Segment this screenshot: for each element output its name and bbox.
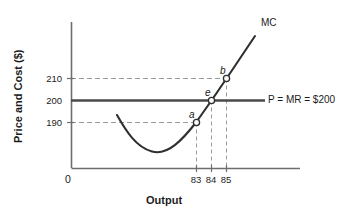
price-mr-label: P = MR = $200: [268, 94, 335, 105]
chart-canvas: [0, 0, 343, 219]
y-tick-label-200: 200: [28, 95, 62, 106]
point-label-b: b: [220, 65, 226, 76]
data-point-b: [223, 75, 229, 81]
x-axis-title: Output: [146, 194, 182, 206]
marginal-cost-curve: [117, 36, 255, 152]
y-tick-label-210: 210: [28, 73, 62, 84]
origin-label: 0: [65, 173, 71, 185]
mc-curve-label: MC: [261, 17, 277, 28]
y-axis-title: Price and Cost ($): [12, 49, 24, 143]
y-tick-label-190: 190: [28, 117, 62, 128]
point-label-e: e: [205, 87, 211, 98]
data-point-e: [208, 97, 214, 103]
data-point-a: [193, 119, 199, 125]
chart-figure: 210 200 190 83 84 85 0 a e b MC P = MR =…: [0, 0, 343, 219]
x-tick-label-85: 85: [216, 174, 236, 185]
point-label-a: a: [189, 109, 195, 120]
